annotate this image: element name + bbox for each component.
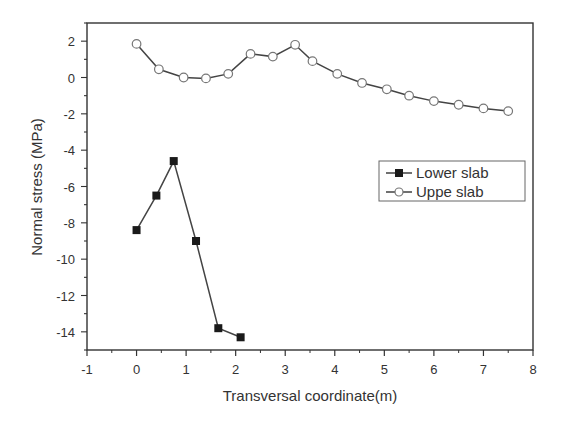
data-point <box>179 73 188 82</box>
y-tick-label: -14 <box>56 325 75 340</box>
y-tick-label: -10 <box>56 252 75 267</box>
y-tick-label: -2 <box>63 107 75 122</box>
legend-label-upper-slab: Uppe slab <box>416 183 484 200</box>
data-point <box>430 97 439 106</box>
y-tick-label: -8 <box>63 216 75 231</box>
x-tick-label: 3 <box>282 362 289 377</box>
x-axis-title: Transversal coordinate(m) <box>223 387 398 404</box>
y-tick-label: 0 <box>68 71 75 86</box>
x-tick-label: 6 <box>430 362 437 377</box>
data-point <box>383 85 392 94</box>
data-point <box>405 91 414 100</box>
data-point <box>454 100 463 109</box>
y-tick-label: -4 <box>63 143 75 158</box>
x-tick-label: 5 <box>381 362 388 377</box>
data-point <box>269 52 278 61</box>
data-point <box>192 237 200 245</box>
y-axis-ticks: 20-2-4-6-8-10-12-14 <box>56 23 87 350</box>
data-point <box>202 74 211 83</box>
legend: Lower slab Uppe slab <box>379 161 525 201</box>
y-tick-label: -12 <box>56 289 75 304</box>
data-point <box>504 107 513 116</box>
x-tick-label: 4 <box>331 362 338 377</box>
y-tick-label: 2 <box>68 34 75 49</box>
x-tick-label: 2 <box>232 362 239 377</box>
series-lower-slab <box>133 157 245 341</box>
series-uppe-slab <box>132 40 512 116</box>
data-point <box>479 104 488 113</box>
data-point <box>358 79 367 88</box>
x-tick-label: 7 <box>480 362 487 377</box>
y-axis-title: Normal stress (MPa) <box>28 118 45 256</box>
data-point <box>333 70 342 79</box>
data-point <box>308 57 317 66</box>
x-tick-label: 0 <box>133 362 140 377</box>
data-point <box>237 333 245 341</box>
x-tick-label: -1 <box>81 362 93 377</box>
data-point <box>224 70 233 79</box>
data-point <box>155 65 164 74</box>
data-point <box>133 226 141 234</box>
data-point <box>291 41 300 50</box>
data-point <box>152 192 160 200</box>
y-tick-label: -6 <box>63 180 75 195</box>
x-tick-label: 1 <box>182 362 189 377</box>
data-point <box>214 324 222 332</box>
legend-label-lower-slab: Lower slab <box>416 164 489 181</box>
line-chart: -1012345678 20-2-4-6-8-10-12-14 Transver… <box>0 0 565 425</box>
open-circle-marker-icon <box>395 188 403 196</box>
data-point <box>132 40 141 49</box>
data-point <box>246 50 255 59</box>
x-tick-label: 8 <box>529 362 536 377</box>
filled-square-marker-icon <box>395 169 403 177</box>
data-point <box>170 157 178 165</box>
